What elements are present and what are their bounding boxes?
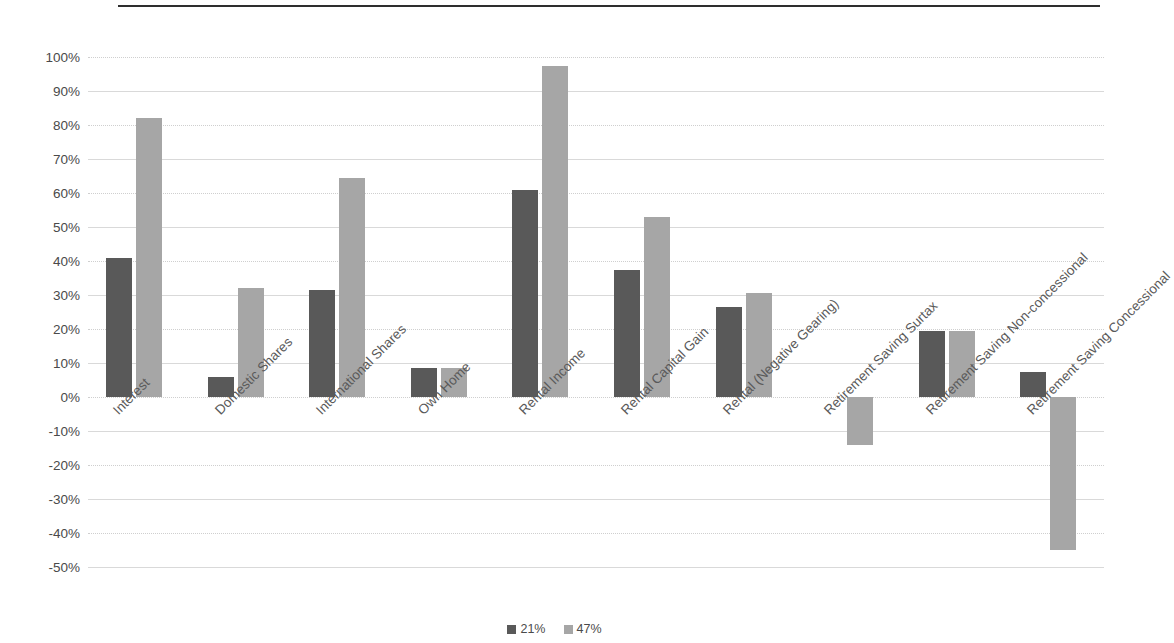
y-axis-tick-label: -30% [10, 492, 80, 507]
bar-group [596, 57, 698, 567]
y-axis-tick-label: -10% [10, 424, 80, 439]
y-axis-tick-label: 50% [10, 220, 80, 235]
bar-group [190, 57, 292, 567]
bar[interactable] [136, 118, 162, 397]
legend-label: 47% [577, 622, 602, 636]
legend-label: 21% [520, 622, 545, 636]
y-axis-tick-label: 20% [10, 322, 80, 337]
legend-swatch [564, 625, 573, 634]
y-axis-tick-label: 40% [10, 254, 80, 269]
bar-group [698, 57, 800, 567]
y-axis-tick-label: -20% [10, 458, 80, 473]
y-axis-tick-label: -40% [10, 526, 80, 541]
bar[interactable] [512, 190, 538, 397]
bar[interactable] [716, 307, 742, 397]
bar-group [88, 57, 190, 567]
plot-area [88, 57, 1104, 567]
legend-item[interactable]: 47% [564, 622, 602, 636]
chart-legend: 21%47% [0, 622, 1109, 636]
y-axis-tick-label: 100% [10, 50, 80, 65]
bar-group [494, 57, 596, 567]
y-axis-tick-label: 30% [10, 288, 80, 303]
y-axis-tick-label: -50% [10, 560, 80, 575]
y-axis-tick-label: 60% [10, 186, 80, 201]
bar[interactable] [614, 270, 640, 398]
y-axis-tick-label: 0% [10, 390, 80, 405]
legend-item[interactable]: 21% [507, 622, 545, 636]
gridline [88, 567, 1104, 568]
bar[interactable] [542, 66, 568, 398]
bar-group [393, 57, 495, 567]
bar-chart: 100%90%80%70%60%50%40%30%20%10%0%-10%-20… [0, 30, 1109, 643]
bar[interactable] [309, 290, 335, 397]
bar[interactable] [919, 331, 945, 397]
scan-artifact-line [118, 5, 1100, 7]
bar[interactable] [1050, 397, 1076, 550]
legend-swatch [507, 625, 516, 634]
bar-group [291, 57, 393, 567]
y-axis-tick-label: 10% [10, 356, 80, 371]
bar[interactable] [847, 397, 873, 445]
bar[interactable] [106, 258, 132, 397]
y-axis-tick-label: 90% [10, 84, 80, 99]
y-axis-tick-label: 80% [10, 118, 80, 133]
y-axis-tick-label: 70% [10, 152, 80, 167]
